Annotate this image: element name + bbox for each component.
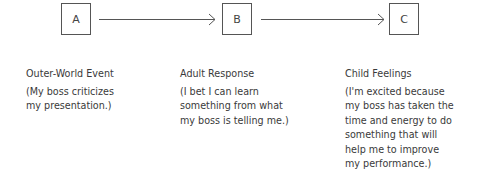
column-heading: Adult Response bbox=[180, 67, 289, 82]
column-body: (My boss criticizes my presentation.) bbox=[26, 85, 114, 114]
column-body: (I'm excited because my boss has taken t… bbox=[345, 85, 454, 172]
arrow-a-to-b-icon bbox=[99, 14, 215, 25]
column-adult-response: Adult Response (I bet I can learn someth… bbox=[180, 67, 289, 128]
column-body: (I bet I can learn something from what m… bbox=[180, 85, 289, 129]
arrows bbox=[0, 0, 483, 40]
arrow-b-to-c-icon bbox=[261, 14, 384, 25]
column-child-feelings: Child Feelings (I'm excited because my b… bbox=[345, 67, 454, 172]
column-heading: Child Feelings bbox=[345, 67, 454, 82]
column-outer-world-event: Outer-World Event (My boss criticizes my… bbox=[26, 67, 114, 114]
column-heading: Outer-World Event bbox=[26, 67, 114, 82]
